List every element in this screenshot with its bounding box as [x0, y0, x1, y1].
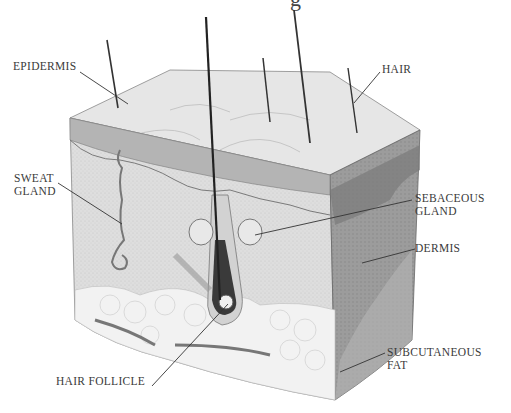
- label-dermis: DERMIS: [415, 242, 460, 255]
- sebaceous-gland-right: [238, 219, 262, 245]
- label-subcutaneous-fat-line1: SUBCUTANEOUS: [387, 346, 482, 359]
- label-sebaceous-gland-line2: GLAND: [415, 205, 457, 218]
- label-epidermis: EPIDERMIS: [13, 60, 76, 73]
- sebaceous-gland-left: [189, 219, 213, 245]
- label-sebaceous-gland-line1: SEBACEOUS: [415, 192, 485, 205]
- leader-epidermis: [80, 72, 128, 104]
- label-sweat-gland-line2: GLAND: [14, 185, 56, 198]
- label-hair-follicle: HAIR FOLLICLE: [56, 375, 145, 388]
- label-hair: HAIR: [382, 63, 411, 76]
- label-subcutaneous-fat-line2: FAT: [387, 359, 408, 372]
- label-sweat-gland-line1: SWEAT: [14, 172, 54, 185]
